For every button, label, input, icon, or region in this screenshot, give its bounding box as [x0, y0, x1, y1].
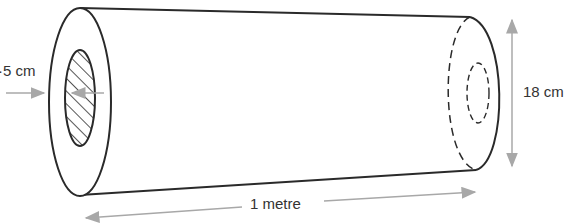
- inner-diameter-label: ·5 cm: [0, 62, 36, 79]
- cylinder-left-face: [49, 8, 111, 196]
- length-label: 1 metre: [250, 195, 301, 212]
- cylinder-diagram: [0, 0, 578, 223]
- cylinder-body: [80, 8, 499, 195]
- diagram-canvas: ·5 cm 18 cm 1 metre: [0, 0, 578, 223]
- outer-diameter-label: 18 cm: [523, 83, 564, 100]
- hatched-bore: [65, 50, 95, 146]
